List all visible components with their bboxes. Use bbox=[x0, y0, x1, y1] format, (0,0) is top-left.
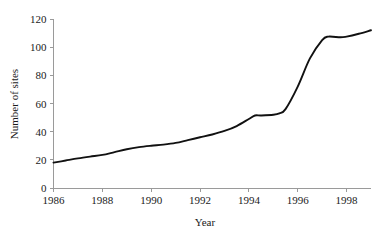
x-tick-label: 1992 bbox=[189, 194, 211, 206]
y-tick-label: 80 bbox=[36, 69, 48, 81]
x-tick-label: 1986 bbox=[43, 194, 66, 206]
y-tick-label: 0 bbox=[41, 182, 47, 194]
y-axis-title: Number of sites bbox=[8, 69, 20, 139]
y-tick-label: 100 bbox=[30, 41, 47, 53]
chart-canvas: 020406080100120 198619881990199219941996… bbox=[0, 0, 380, 238]
data-series-line bbox=[54, 30, 372, 162]
x-tick-label: 1996 bbox=[287, 194, 310, 206]
line-chart-figure: 020406080100120 198619881990199219941996… bbox=[0, 0, 380, 238]
x-tick-label: 1994 bbox=[238, 194, 261, 206]
y-axis-ticks: 020406080100120 bbox=[30, 13, 54, 194]
x-tick-label: 1990 bbox=[140, 194, 163, 206]
x-tick-label: 1998 bbox=[336, 194, 359, 206]
plot-area: 020406080100120 198619881990199219941996… bbox=[30, 13, 371, 206]
x-axis-ticks: 1986198819901992199419961998 bbox=[43, 188, 359, 206]
x-tick-label: 1988 bbox=[91, 194, 114, 206]
y-tick-label: 40 bbox=[36, 126, 48, 138]
y-tick-label: 60 bbox=[36, 98, 48, 110]
y-tick-label: 20 bbox=[36, 154, 48, 166]
y-tick-label: 120 bbox=[30, 13, 47, 25]
x-axis-title: Year bbox=[195, 216, 216, 228]
